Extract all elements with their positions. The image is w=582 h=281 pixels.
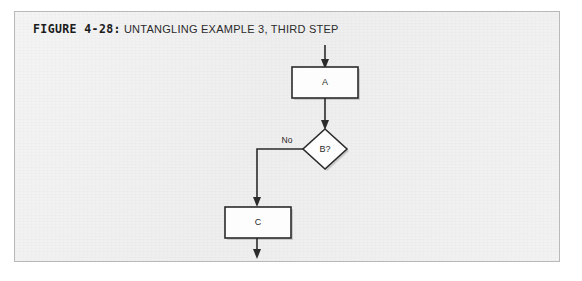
figure-root: FIGURE 4-28:UNTANGLING EXAMPLE 3, THIRD …	[0, 0, 582, 281]
connector-c-exit	[253, 238, 261, 259]
node-b: B?	[303, 129, 349, 171]
connector-entry-to-a	[321, 45, 329, 69]
node-a-label: A	[322, 77, 328, 87]
figure-panel: FIGURE 4-28:UNTANGLING EXAMPLE 3, THIRD …	[14, 11, 560, 262]
connector-b-to-c: No	[253, 135, 303, 207]
node-b-label: B?	[319, 144, 330, 154]
node-a: A	[292, 67, 360, 100]
flowchart-diagram: A B? No C	[15, 12, 560, 262]
edge-label-no: No	[282, 135, 293, 145]
connector-a-to-b	[321, 98, 329, 130]
node-c-label: C	[255, 217, 262, 227]
node-c: C	[225, 207, 293, 240]
